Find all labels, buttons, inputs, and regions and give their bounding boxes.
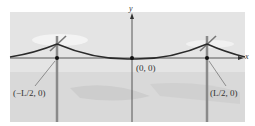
catenary-diagram: y x (−L/2, 0) (0, 0) (L/2, 0) [0, 0, 255, 126]
point-origin [130, 56, 134, 60]
label-left-point: (−L/2, 0) [13, 89, 46, 98]
label-origin: (0, 0) [136, 64, 156, 73]
point-left [55, 56, 59, 60]
label-right-point: (L/2, 0) [210, 89, 238, 98]
x-axis-label: x [245, 53, 249, 61]
cloud-left [32, 34, 88, 46]
diagram-canvas [0, 0, 255, 126]
y-axis-label: y [129, 5, 133, 13]
point-right [205, 56, 209, 60]
